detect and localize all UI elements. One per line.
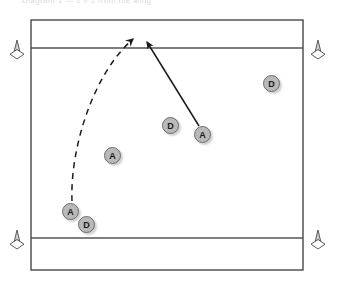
field-outline: [31, 20, 303, 270]
player-defense-1[interactable]: D: [78, 216, 95, 233]
cone-top-right-icon: [311, 40, 325, 59]
player-label: D: [83, 220, 90, 230]
cone-bottom-right-icon: [311, 230, 325, 249]
cone-bottom-left-icon: [10, 230, 24, 249]
player-attack-3[interactable]: A: [194, 126, 211, 143]
player-label: A: [199, 130, 206, 140]
player-defense-3[interactable]: D: [263, 75, 280, 92]
player-attack-2[interactable]: A: [104, 147, 121, 164]
player-attack-1[interactable]: A: [62, 203, 79, 220]
player-label: D: [268, 79, 275, 89]
player-label: A: [109, 151, 116, 161]
cone-top-left-icon: [10, 40, 24, 59]
player-label: D: [167, 121, 174, 131]
player-defense-2[interactable]: D: [162, 117, 179, 134]
field-graphics: [0, 0, 337, 283]
player-label: A: [67, 207, 74, 217]
play-diagram: Diagram 1 — 1 v 1 from the wing: [0, 0, 337, 283]
